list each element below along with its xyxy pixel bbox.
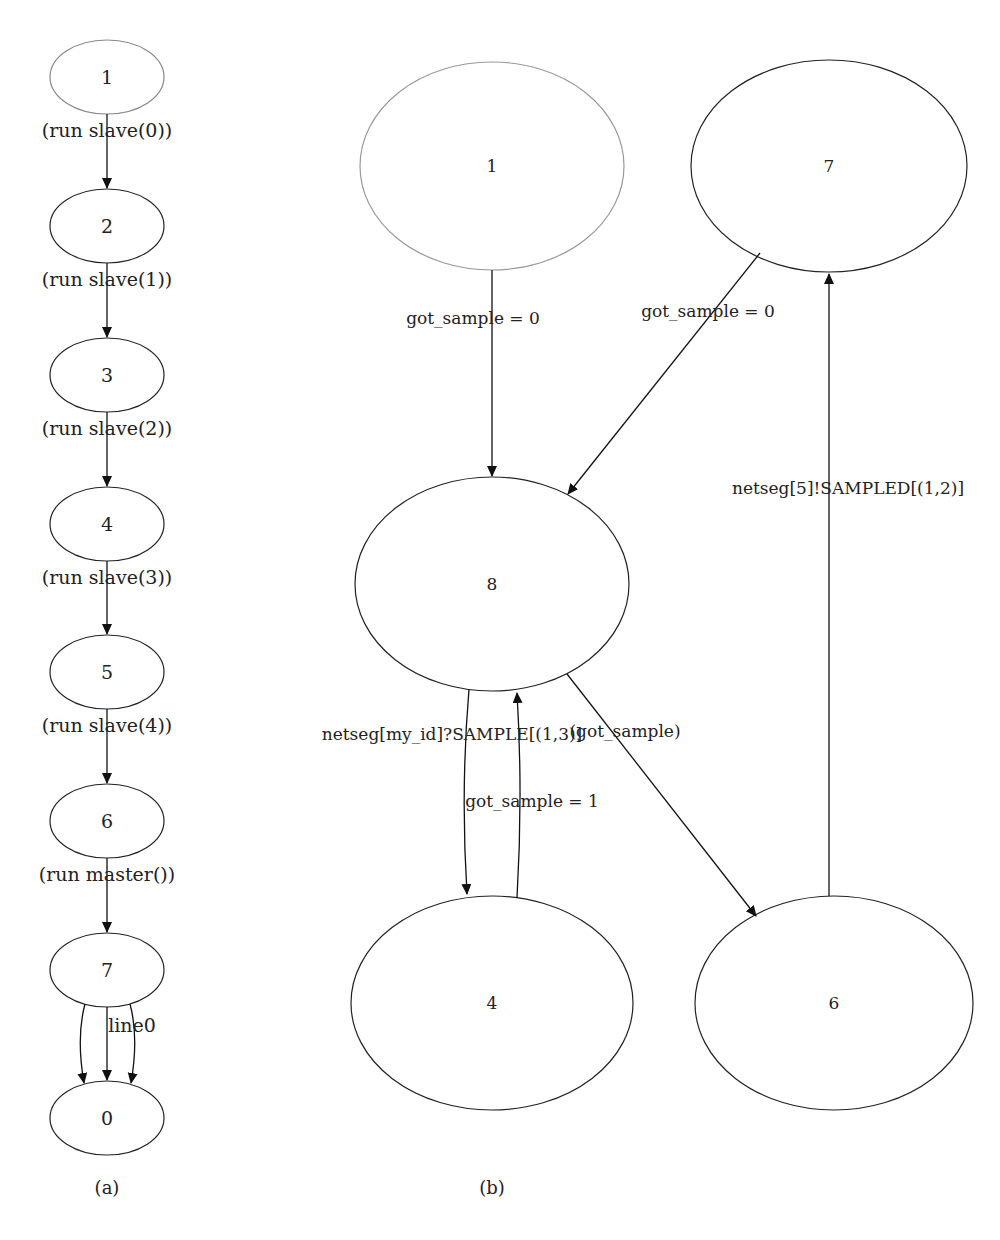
diagram-a: 1 2 3 4 5 6 7 0 <box>39 40 175 1198</box>
edge-label: (run slave(1)) <box>42 268 172 290</box>
node-a-7: 7 <box>50 933 164 1007</box>
edges-a <box>80 114 134 1083</box>
node-b-7: 7 <box>691 60 967 272</box>
edge-label: (run slave(0)) <box>42 119 172 141</box>
node-label: 5 <box>101 661 113 683</box>
node-label: 7 <box>101 959 113 981</box>
node-label: 1 <box>101 66 113 88</box>
caption-a: (a) <box>95 1177 120 1198</box>
node-label: 0 <box>101 1107 113 1129</box>
node-label: 6 <box>829 993 840 1013</box>
edge-label: netseg[5]!SAMPLED[(1,2)] <box>732 478 964 498</box>
edge-label: (run slave(2)) <box>42 417 172 439</box>
node-b-6: 6 <box>695 896 973 1110</box>
node-a-1: 1 <box>50 40 164 114</box>
edge-label: line0 <box>108 1014 156 1036</box>
node-a-4: 4 <box>50 487 164 561</box>
edge-label: (run slave(3)) <box>42 566 172 588</box>
node-a-0: 0 <box>50 1081 164 1155</box>
caption-b: (b) <box>479 1177 505 1198</box>
edge-label: got_sample = 0 <box>641 301 775 321</box>
node-label: 4 <box>101 513 113 535</box>
node-b-4: 4 <box>351 896 633 1110</box>
edge-label: netseg[my_id]?SAMPLE[(1,3)] <box>322 724 582 744</box>
edge-label: (run master()) <box>39 863 175 885</box>
node-label: 8 <box>487 574 498 594</box>
diagram-b: 1 7 8 4 6 <box>322 60 973 1198</box>
node-label: 1 <box>487 156 498 176</box>
node-a-3: 3 <box>50 338 164 412</box>
edge-label: got_sample = 0 <box>406 308 540 328</box>
node-a-5: 5 <box>50 635 164 709</box>
node-b-8: 8 <box>355 477 629 691</box>
node-label: 2 <box>101 215 113 237</box>
edge-label: (got_sample) <box>569 721 680 741</box>
node-a-6: 6 <box>50 784 164 858</box>
node-label: 7 <box>824 156 835 176</box>
edges-b <box>464 253 829 916</box>
edge-label: (run slave(4)) <box>42 714 172 736</box>
node-label: 4 <box>487 993 498 1013</box>
node-label: 3 <box>101 364 113 386</box>
node-label: 6 <box>101 810 113 832</box>
node-b-1: 1 <box>360 62 624 270</box>
edge-label: got_sample = 1 <box>465 791 599 811</box>
diagram-canvas: 1 2 3 4 5 6 7 0 <box>0 0 1000 1240</box>
node-a-2: 2 <box>50 189 164 263</box>
